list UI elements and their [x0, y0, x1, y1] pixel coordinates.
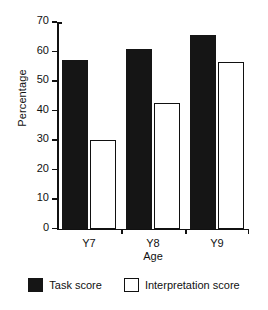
y-axis-tick-label: 30	[27, 132, 49, 144]
chart-legend: Task score Interpretation score	[0, 278, 268, 292]
y-axis-tick: 60	[52, 51, 57, 53]
y-axis-tick: 70	[52, 21, 57, 23]
legend-label-task-score: Task score	[49, 279, 102, 291]
y-axis-tick: 50	[52, 80, 57, 82]
x-axis-tick-label: Y9	[187, 237, 247, 249]
bar-y7-task-score	[62, 60, 88, 228]
x-axis-end-tick	[248, 229, 250, 234]
y-axis-line	[57, 22, 59, 230]
y-axis-tick-label: 0	[27, 221, 49, 233]
legend-item-interpretation-score: Interpretation score	[124, 278, 240, 292]
y-axis-tick-label: 50	[27, 73, 49, 85]
x-axis-group-separator	[121, 229, 123, 234]
y-axis-tick: 30	[52, 139, 57, 141]
bar-y8-interpretation-score	[154, 103, 180, 228]
bar-y9-task-score	[190, 35, 216, 228]
legend-swatch-task-score	[28, 278, 43, 292]
x-axis-line	[57, 229, 249, 231]
y-axis-tick-label: 70	[27, 14, 49, 26]
plot-area: 010203040506070 Y7Y8Y9	[57, 22, 249, 230]
y-axis-tick: 10	[52, 198, 57, 200]
y-axis-tick-label: 40	[27, 103, 49, 115]
legend-item-task-score: Task score	[28, 278, 102, 292]
legend-label-interpretation-score: Interpretation score	[145, 279, 240, 291]
bar-y8-task-score	[126, 49, 152, 229]
bar-y7-interpretation-score	[90, 140, 116, 229]
x-axis-group-separator	[185, 229, 187, 234]
y-axis-top-cap	[57, 22, 62, 24]
y-axis-tick: 40	[52, 110, 57, 112]
x-axis-tick-label: Y7	[59, 237, 119, 249]
y-axis-tick: 0	[52, 228, 57, 230]
bar-y9-interpretation-score	[218, 62, 244, 229]
bar-chart-figure: Percentage 010203040506070 Y7Y8Y9 Age Ta…	[0, 0, 268, 310]
x-axis-tick-label: Y8	[123, 237, 183, 249]
y-axis-tick-label: 20	[27, 162, 49, 174]
legend-swatch-interpretation-score	[124, 278, 139, 292]
y-axis-tick: 20	[52, 169, 57, 171]
y-axis-tick-label: 60	[27, 44, 49, 56]
x-axis-title: Age	[57, 250, 249, 262]
y-axis-tick-label: 10	[27, 191, 49, 203]
